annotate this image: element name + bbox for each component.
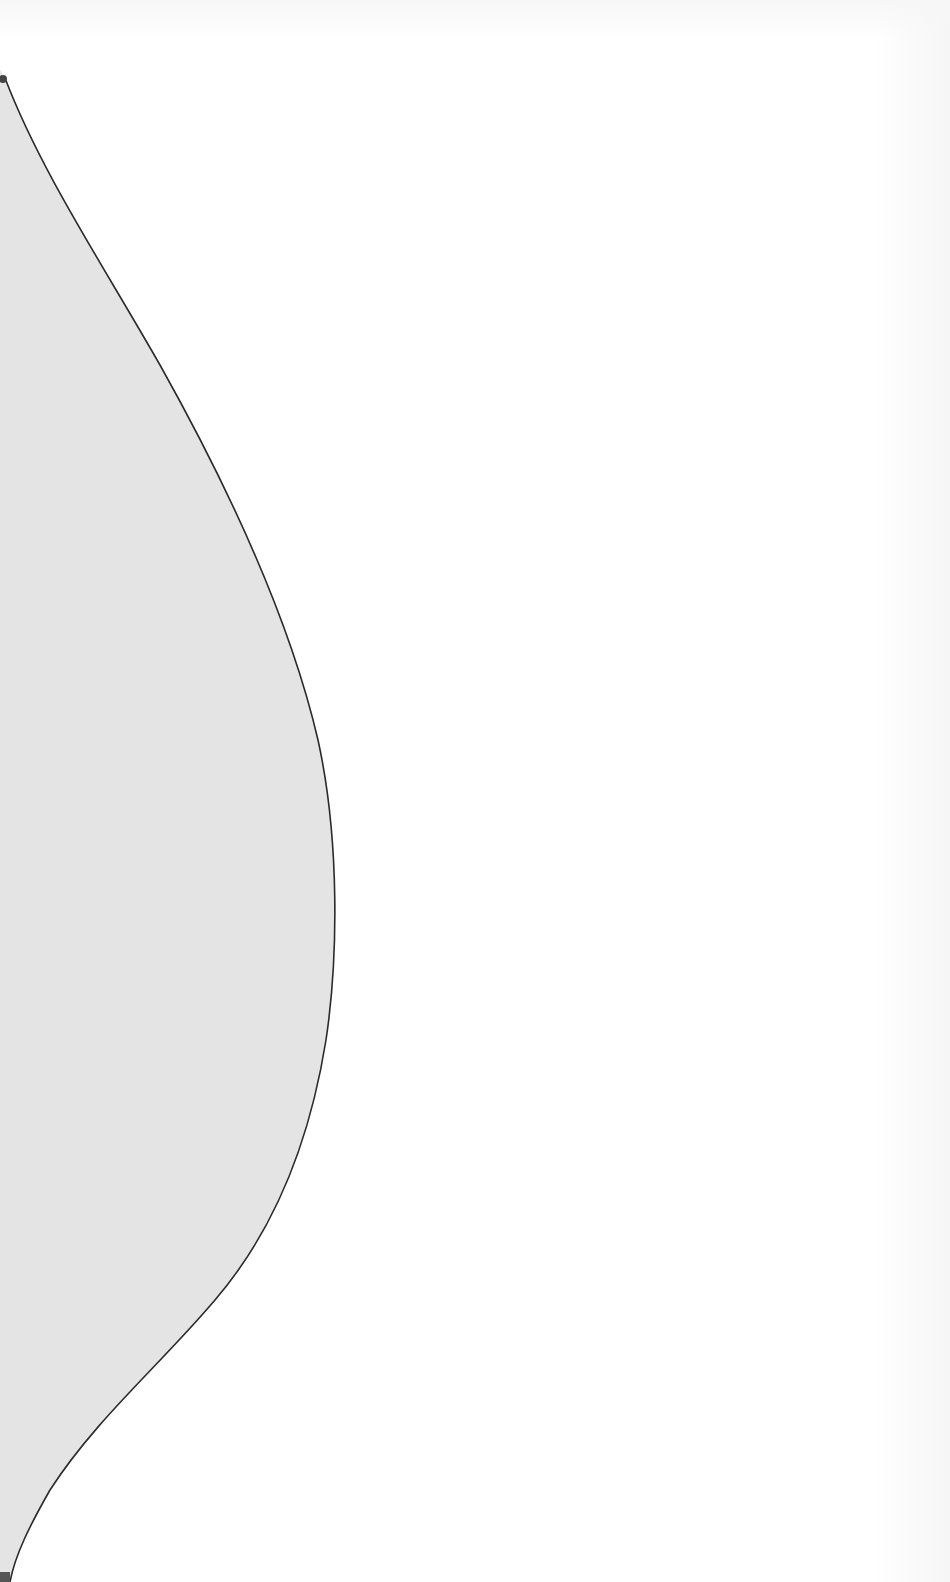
image-canvas [0,0,950,1582]
bottom-corner-mark [0,1572,10,1582]
curved-shape-graphic [0,0,950,1582]
gray-shape-fill [0,70,335,1582]
